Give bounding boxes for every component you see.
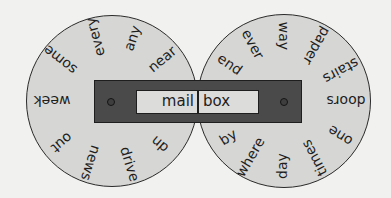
window-left-word: mail [138, 93, 194, 110]
word-wheel-diagram: nearanyeverysomeweekoutnewsdriveup endev… [0, 0, 391, 198]
wheel-word-week: week [34, 94, 71, 108]
right-pivot-icon [280, 98, 288, 106]
window-divider [197, 90, 199, 114]
wheel-word-day: day [275, 153, 289, 179]
wheel-word-way: way [277, 22, 291, 50]
window-right-word: box [203, 93, 257, 110]
wheel-word-doors: doors [326, 94, 365, 108]
left-pivot-icon [107, 98, 115, 106]
